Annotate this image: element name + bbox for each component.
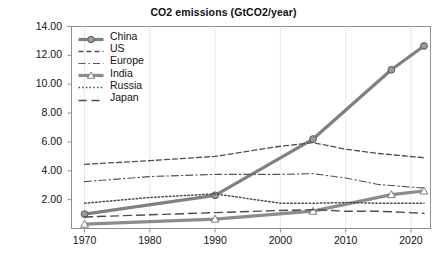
legend-swatch-icon — [78, 92, 104, 103]
legend-item-russia[interactable]: Russia — [78, 79, 144, 91]
co2-emissions-line-chart: CO2 emissions (GtCO2/year) 14.0012.0010.… — [0, 0, 447, 261]
legend-label: Russia — [110, 79, 142, 91]
legend-swatch-icon — [78, 43, 104, 54]
y-tick-label: 4.00 — [16, 165, 62, 176]
x-tick-label: 1970 — [63, 235, 107, 246]
y-tick-label: 10.00 — [16, 78, 62, 89]
y-tick-label: 2.00 — [16, 194, 62, 205]
legend-item-us[interactable]: US — [78, 42, 144, 54]
x-tick-label: 2020 — [389, 235, 433, 246]
legend-label: Europe — [110, 54, 144, 66]
legend-swatch-icon — [78, 55, 104, 66]
legend-swatch-icon — [78, 79, 104, 90]
legend-swatch-icon — [78, 31, 104, 42]
series-line-us — [85, 143, 424, 165]
x-tick-label: 1980 — [128, 235, 172, 246]
x-tick-label: 2010 — [324, 235, 368, 246]
data-point-china — [310, 136, 317, 143]
y-tick-label: 14.00 — [16, 21, 62, 32]
y-tick-label: 6.00 — [16, 136, 62, 147]
series-line-europe — [85, 174, 424, 188]
legend-label: US — [110, 42, 125, 54]
legend-item-japan[interactable]: Japan — [78, 91, 144, 103]
legend-label: India — [110, 67, 133, 79]
data-point-china — [388, 66, 395, 73]
data-point-china — [212, 192, 219, 199]
legend-swatch-icon — [78, 67, 104, 78]
data-point-china — [421, 43, 428, 50]
chart-legend: ChinaUSEuropeIndiaRussiaJapan — [78, 30, 144, 103]
legend-item-india[interactable]: India — [78, 67, 144, 79]
y-tick-label: 12.00 — [16, 49, 62, 60]
plot-area — [0, 0, 447, 261]
legend-item-europe[interactable]: Europe — [78, 54, 144, 66]
x-tick-label: 1990 — [193, 235, 237, 246]
legend-item-china[interactable]: China — [78, 30, 144, 42]
x-tick-label: 2000 — [258, 235, 302, 246]
legend-label: China — [110, 30, 137, 42]
legend-label: Japan — [110, 91, 139, 103]
y-tick-label: 8.00 — [16, 107, 62, 118]
